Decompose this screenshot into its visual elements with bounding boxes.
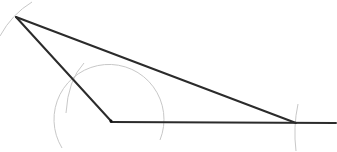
construction-arcs (0, 2, 298, 151)
ray-bc (111, 122, 336, 123)
segment-ac (16, 17, 296, 123)
triangle-lines (16, 17, 336, 123)
construction-arc-at-a (0, 2, 32, 36)
segment-ab (16, 17, 111, 121)
vertex-b-dot (109, 119, 112, 122)
construction-arc-at-c (295, 104, 298, 151)
construction-diagram (0, 0, 337, 152)
